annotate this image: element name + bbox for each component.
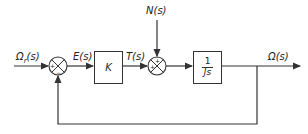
plant-denominator: Js — [204, 68, 211, 78]
junction1-minus-sign: − — [56, 70, 61, 76]
junction2-top-plus-sign: + — [155, 58, 160, 64]
controller-gain-label: K — [105, 62, 112, 73]
error-label: E(s) — [73, 52, 92, 62]
torque-label: T(s) — [126, 52, 145, 62]
controller-block: K — [94, 51, 123, 84]
plant-block: 1 Js — [193, 51, 222, 84]
input-label: Ωr(s) — [16, 52, 40, 65]
plant-transfer-function: 1 Js — [202, 57, 214, 78]
junction2-left-plus-sign: + — [150, 64, 155, 70]
junction1-plus-sign: + — [50, 63, 55, 69]
output-label: Ω(s) — [268, 52, 289, 62]
disturbance-label: N(s) — [146, 6, 167, 16]
